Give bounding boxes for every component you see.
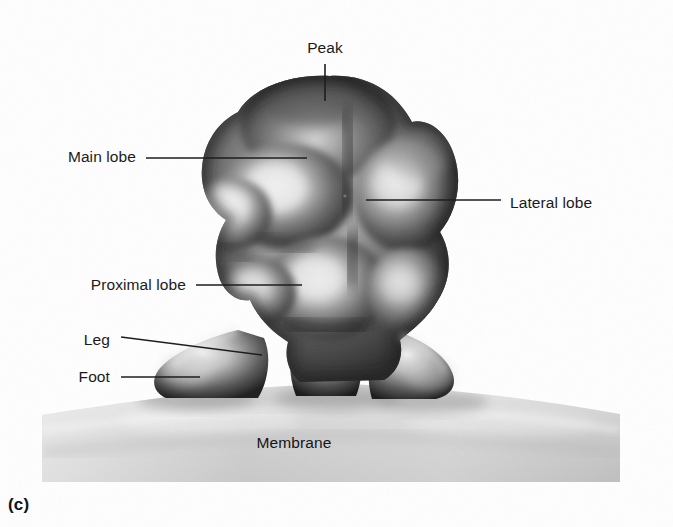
particle-body (154, 60, 480, 400)
figure-caption: (c) (8, 496, 29, 513)
label-foot: Foot (79, 369, 110, 385)
label-peak: Peak (307, 40, 343, 56)
label-proximal-lobe: Proximal lobe (91, 277, 186, 293)
label-leg: Leg (84, 332, 110, 348)
label-membrane: Membrane (257, 435, 332, 451)
figure-illustration: PeakMain lobeLateral lobeProximal lobeLe… (0, 0, 673, 527)
particle-membrane-drawing (0, 0, 673, 527)
label-lateral-lobe: Lateral lobe (510, 195, 592, 211)
label-main-lobe: Main lobe (68, 149, 136, 165)
